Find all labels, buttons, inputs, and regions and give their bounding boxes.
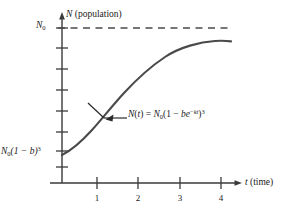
y-axis-unit: (population) <box>75 9 122 19</box>
equation-power: 3 <box>202 108 205 115</box>
x-axis-unit: (time) <box>250 177 273 187</box>
x-tick-label: 1 <box>95 193 100 203</box>
y-axis-symbol: N <box>66 9 72 19</box>
equation-amplitude-sub: 0 <box>160 113 163 120</box>
x-tick-label: 2 <box>136 193 141 203</box>
population-growth-figure: N (population) t (time) N0 N0(1 − b)3 N(… <box>0 0 284 213</box>
x-axis-symbol: t <box>245 177 248 187</box>
initial-value-label: N0(1 − b)3 <box>1 147 41 157</box>
y-axis-arrowhead <box>59 12 65 20</box>
x-axis-arrowhead <box>235 180 243 186</box>
equation-exponent: −kt <box>190 108 198 115</box>
axes-group <box>50 12 242 186</box>
chart-canvas <box>0 0 284 213</box>
initial-value-subscript: 0 <box>7 150 10 157</box>
equation-exponent-t: t <box>197 108 199 115</box>
asymptote-label-subscript: 0 <box>42 24 45 31</box>
equation-annotation: N(t) = N0(1 − be−kt)3 <box>128 110 205 120</box>
x-tick-label: 4 <box>219 193 224 203</box>
equation-amplitude: N <box>153 109 159 119</box>
equation-leader-line-diagonal <box>88 103 104 118</box>
equation-equals: = <box>146 109 151 119</box>
x-tick-label: 3 <box>178 193 183 203</box>
asymptote-label: N0 <box>36 21 46 31</box>
equation-one: 1 <box>166 109 171 119</box>
x-axis-title: t (time) <box>245 178 273 188</box>
initial-value-rest: (1 − b) <box>11 146 38 156</box>
y-axis-title: N (population) <box>66 10 122 20</box>
equation-minus: − <box>173 109 178 119</box>
initial-value-power: 3 <box>38 145 41 152</box>
equation-lhs-close: ) <box>140 109 143 119</box>
population-growth-curve <box>62 41 231 155</box>
